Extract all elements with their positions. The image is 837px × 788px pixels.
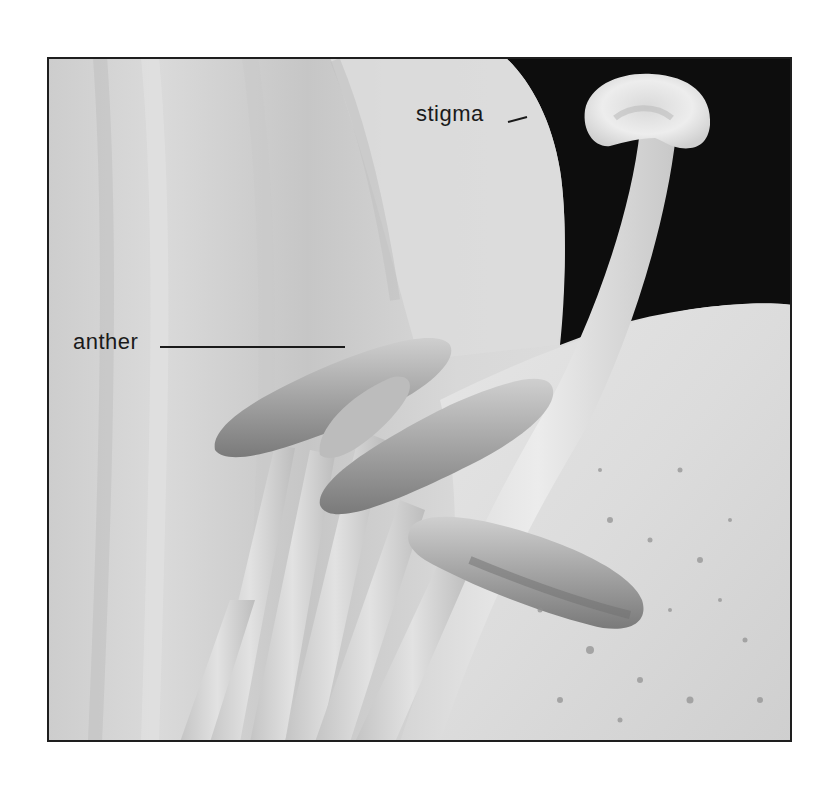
stigma-label: stigma bbox=[416, 103, 484, 125]
flower-photo bbox=[47, 57, 792, 742]
flower-photo-illustration bbox=[47, 57, 792, 742]
labeled-flower-figure: stigma anther bbox=[0, 0, 837, 788]
anther-label: anther bbox=[73, 331, 138, 353]
